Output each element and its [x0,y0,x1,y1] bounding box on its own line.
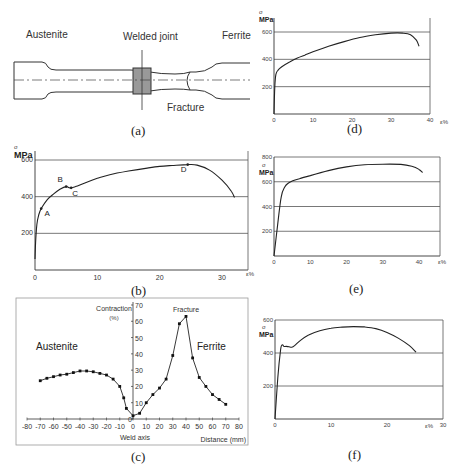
caption-f: (f) [348,447,361,463]
y-tick-label: 200 [263,383,274,389]
x-axis-label: ε% [425,423,434,429]
y-tick-label: 600 [263,317,274,323]
x-tick-label: 0 [273,422,277,428]
x-tick-label: 30 [440,422,447,428]
caption-e: (e) [349,281,363,297]
stress-strain-chart-f: 2004006000102030ε%σMPa [0,0,457,471]
y-axis-unit: MPa [259,331,274,338]
caption-c: (c) [131,449,145,465]
caption-d: (d) [347,121,362,137]
stress-strain-curve [275,327,416,419]
x-tick-label: 10 [328,422,335,428]
sigma-label: σ [262,324,266,330]
caption-b: (b) [131,283,146,299]
y-tick-label: 400 [263,350,274,356]
x-tick-label: 20 [384,422,391,428]
